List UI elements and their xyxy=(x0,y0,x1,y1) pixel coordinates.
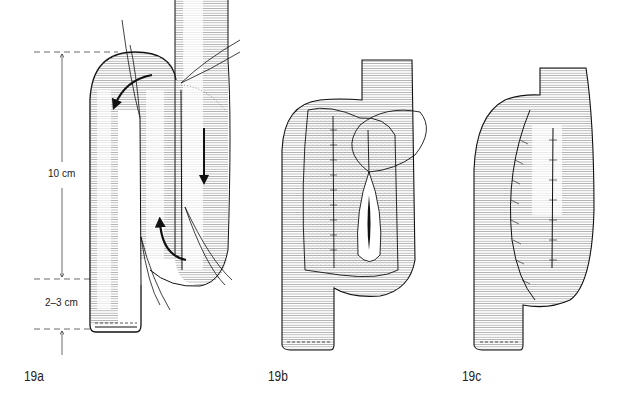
measurement-2-3cm: 2–3 cm xyxy=(44,297,79,308)
panel-label-19c: 19c xyxy=(462,368,481,384)
panel-label-19b: 19b xyxy=(268,368,288,384)
surgical-illustration xyxy=(0,0,626,403)
panel-19a-drawing xyxy=(90,0,240,332)
measurement-10cm: 10 cm xyxy=(47,168,76,179)
panel-19b-drawing xyxy=(282,60,426,350)
panel-19c-drawing xyxy=(474,68,594,350)
panel-label-19a: 19a xyxy=(24,368,44,384)
